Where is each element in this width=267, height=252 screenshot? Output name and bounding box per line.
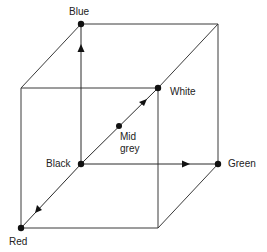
label-mid-grey-line1: Mid bbox=[120, 131, 136, 142]
label-green: Green bbox=[228, 158, 256, 169]
label-blue: Blue bbox=[69, 6, 89, 17]
vertex-white-dot bbox=[155, 85, 161, 91]
vertex-green-dot bbox=[215, 161, 221, 167]
axis-black-to-red bbox=[21, 164, 81, 228]
vertex-mid-grey-dot bbox=[116, 123, 122, 129]
arrow-up-icon bbox=[78, 44, 85, 52]
label-black: Black bbox=[46, 158, 70, 169]
vertex-blue-dot bbox=[78, 21, 84, 27]
edge-blue-to-front-top-left bbox=[21, 24, 81, 88]
label-white: White bbox=[170, 86, 196, 97]
label-mid-grey-line2: grey bbox=[120, 143, 139, 154]
vertex-black-dot bbox=[78, 161, 84, 167]
edge-back-top-right-to-white bbox=[158, 24, 218, 88]
arrow-right-icon bbox=[182, 161, 190, 168]
edge-green-to-front-bottom-right bbox=[158, 164, 218, 228]
label-red: Red bbox=[9, 236, 27, 247]
vertex-red-dot bbox=[18, 225, 24, 231]
rgb-cube-diagram bbox=[0, 0, 267, 252]
